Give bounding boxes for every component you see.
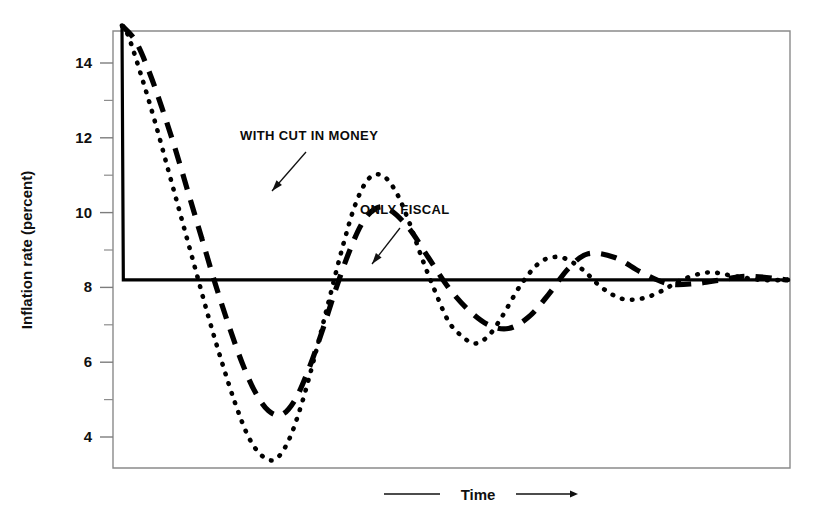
x-axis-title-group: Time — [384, 486, 578, 503]
annotation-arrow-icon — [372, 253, 382, 264]
y-tick-label: 8 — [84, 278, 92, 295]
y-tick-label: 4 — [84, 428, 93, 445]
series-baseline-step — [122, 26, 788, 280]
y-tick-label: 10 — [75, 204, 92, 221]
annotation-label: ONLY FISCAL — [360, 202, 450, 217]
time-arrow-icon — [570, 491, 578, 498]
series-only-fiscal — [122, 26, 788, 416]
y-axis-title: Inflation rate (percent) — [18, 171, 35, 329]
x-axis-title: Time — [461, 486, 496, 503]
plot-frame — [113, 31, 790, 468]
inflation-response-chart: 468101214 WITH CUT IN MONEYONLY FISCAL I… — [0, 0, 822, 518]
y-tick-label: 6 — [84, 353, 92, 370]
series-with-cut-in-money — [122, 26, 788, 461]
chart-page: 468101214 WITH CUT IN MONEYONLY FISCAL I… — [0, 0, 822, 518]
annotation-label: WITH CUT IN MONEY — [240, 128, 378, 143]
y-tick-label: 12 — [75, 129, 92, 146]
y-tick-label: 14 — [75, 54, 92, 71]
y-axis-ticks: 468101214 — [75, 54, 113, 445]
